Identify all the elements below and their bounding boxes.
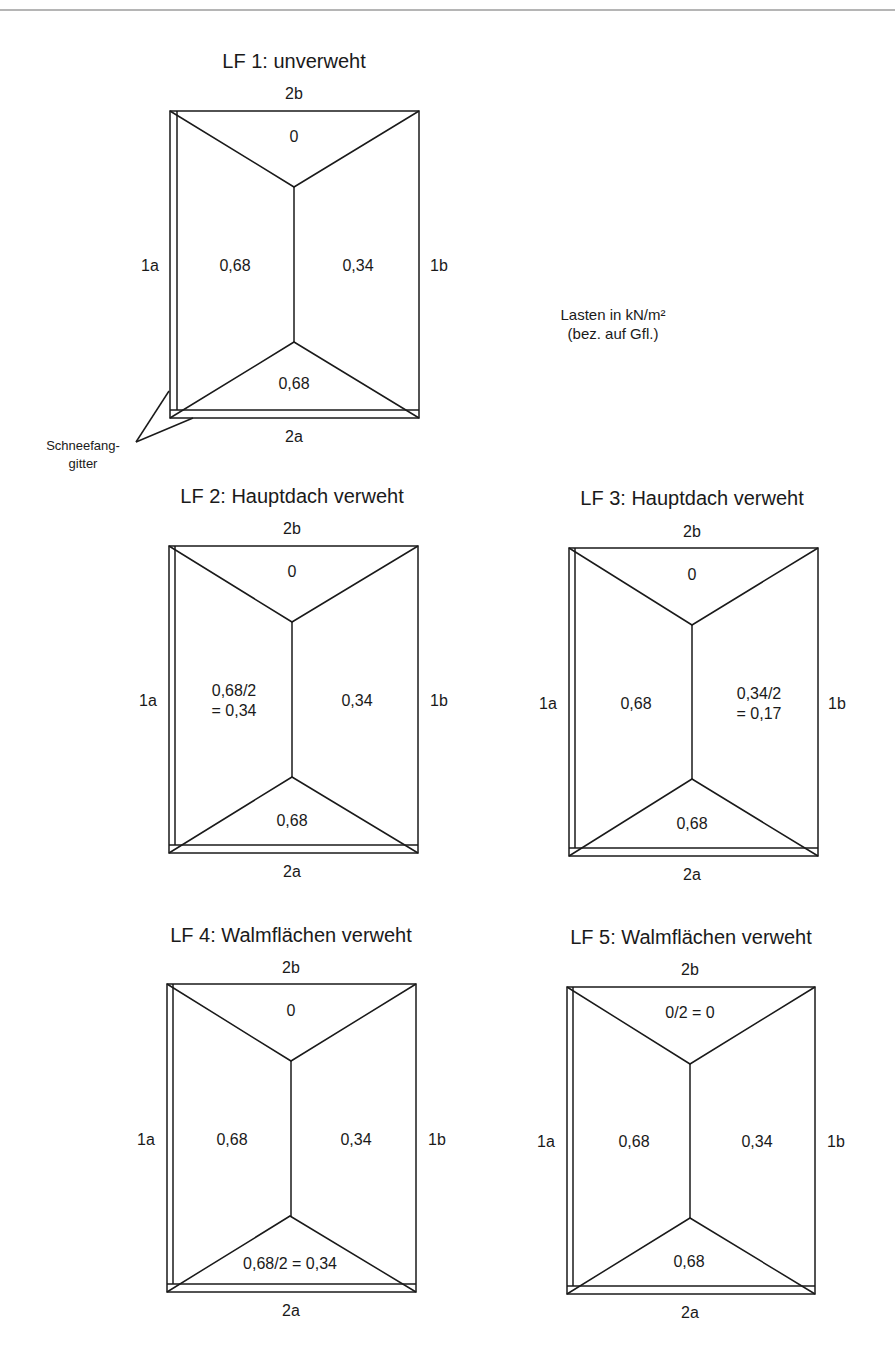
side-label-bottom: 2a bbox=[283, 862, 301, 882]
load-left-main-line-1: 0,68 bbox=[219, 256, 250, 276]
side-label-top: 2b bbox=[283, 519, 301, 539]
load-bottom-hip: 0,68 bbox=[278, 374, 309, 394]
side-label-left: 1a bbox=[141, 256, 159, 276]
units-line-1: Lasten in kN/m² bbox=[560, 306, 665, 325]
snow-guard-label: Schneefang- gitter bbox=[46, 437, 120, 472]
roof-plan-lf4 bbox=[167, 984, 416, 1292]
load-top-hip: 0 bbox=[290, 127, 299, 147]
snow-guard-label-line-2: gitter bbox=[46, 455, 120, 473]
side-label-left: 1a bbox=[137, 1130, 155, 1150]
load-case-title-lf4: LF 4: Walmflächen verweht bbox=[170, 923, 412, 948]
side-label-top: 2b bbox=[683, 522, 701, 542]
roof-plan-lf1 bbox=[170, 111, 419, 418]
load-case-title-lf5: LF 5: Walmflächen verweht bbox=[570, 925, 812, 950]
load-bottom-hip: 0,68 bbox=[276, 811, 307, 831]
side-label-bottom: 2a bbox=[285, 427, 303, 447]
side-label-left: 1a bbox=[539, 694, 557, 714]
load-right-main: 0,34/2 = 0,17 bbox=[737, 684, 782, 724]
roof-plan-lf2 bbox=[169, 546, 418, 853]
load-bottom-hip: 0,68/2 = 0,34 bbox=[243, 1254, 337, 1274]
units-line-2: (bez. auf Gfl.) bbox=[560, 325, 665, 344]
load-right-main: 0,34 bbox=[341, 691, 372, 711]
load-bottom-hip: 0,68 bbox=[676, 814, 707, 834]
load-top-hip: 0 bbox=[288, 562, 297, 582]
load-top-hip: 0 bbox=[688, 565, 697, 585]
side-label-right: 1b bbox=[827, 1132, 845, 1152]
side-label-right: 1b bbox=[828, 694, 846, 714]
load-right-main-line-2: = 0,17 bbox=[737, 704, 782, 724]
load-left-main: 0,68 bbox=[216, 1130, 247, 1150]
load-left-main-line-2: = 0,34 bbox=[212, 701, 257, 721]
roof-plan-lf5 bbox=[567, 987, 815, 1294]
load-right-main: 0,34 bbox=[342, 256, 373, 276]
units-legend: Lasten in kN/m² (bez. auf Gfl.) bbox=[560, 306, 665, 344]
side-label-bottom: 2a bbox=[683, 865, 701, 885]
load-right-main-line-1: 0,34/2 bbox=[737, 684, 782, 704]
side-label-left: 1a bbox=[139, 691, 157, 711]
load-left-main: 0,68 bbox=[618, 1132, 649, 1152]
load-left-main: 0,68 bbox=[219, 256, 250, 276]
side-label-right: 1b bbox=[430, 691, 448, 711]
side-label-bottom: 2a bbox=[681, 1303, 699, 1323]
load-left-main-line-1: 0,68/2 bbox=[212, 681, 257, 701]
load-right-main: 0,34 bbox=[340, 1130, 371, 1150]
snow-guard-label-line-1: Schneefang- bbox=[46, 437, 120, 455]
load-case-title-lf3: LF 3: Hauptdach verweht bbox=[580, 486, 803, 511]
load-left-main: 0,68 bbox=[620, 694, 651, 714]
load-right-main: 0,34 bbox=[741, 1132, 772, 1152]
load-case-title-lf1: LF 1: unverweht bbox=[222, 49, 365, 74]
side-label-top: 2b bbox=[285, 84, 303, 104]
side-label-bottom: 2a bbox=[282, 1301, 300, 1321]
side-label-right: 1b bbox=[430, 256, 448, 276]
load-top-hip: 0 bbox=[287, 1001, 296, 1021]
load-left-main: 0,68/2 = 0,34 bbox=[212, 681, 257, 721]
side-label-left: 1a bbox=[537, 1132, 555, 1152]
roof-diagrams bbox=[0, 0, 895, 1361]
load-top-hip: 0/2 = 0 bbox=[665, 1003, 714, 1023]
load-case-title-lf2: LF 2: Hauptdach verweht bbox=[180, 484, 403, 509]
snow-guard-leader-lines bbox=[136, 391, 193, 442]
side-label-right: 1b bbox=[428, 1130, 446, 1150]
side-label-top: 2b bbox=[282, 958, 300, 978]
load-bottom-hip: 0,68 bbox=[673, 1252, 704, 1272]
side-label-top: 2b bbox=[681, 960, 699, 980]
